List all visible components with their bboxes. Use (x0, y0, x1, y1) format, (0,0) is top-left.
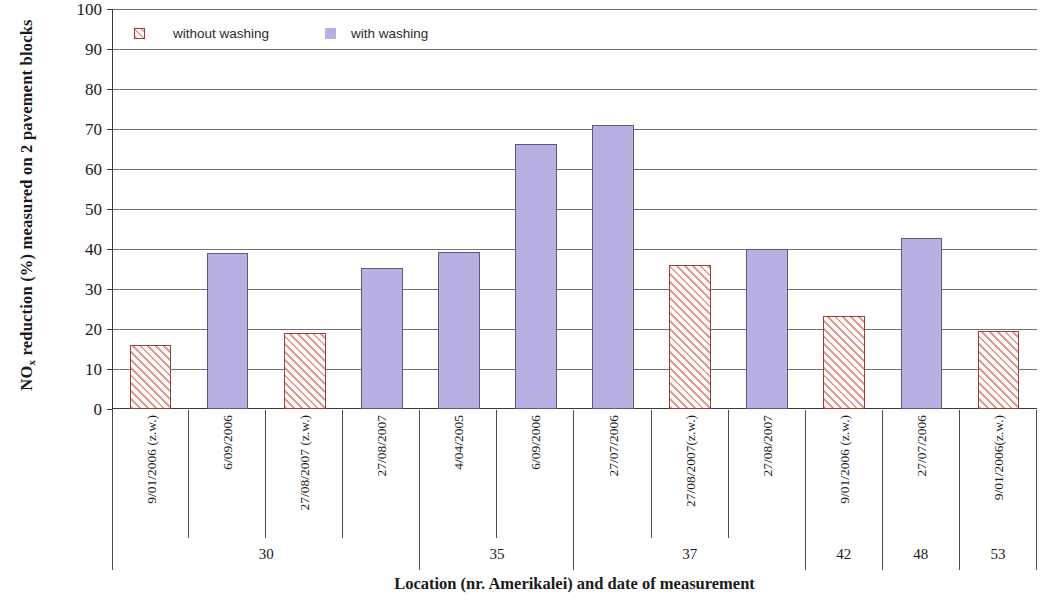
x-group-label-30: 30 (259, 546, 274, 563)
bar-4 (361, 268, 403, 409)
legend-item-without-washing: without washing (134, 26, 269, 41)
x-category-cell-2: 6/09/2006 (189, 410, 266, 538)
legend-label-with-washing: with washing (351, 26, 428, 41)
legend-swatch-solid-icon (325, 28, 336, 39)
bar-2 (207, 253, 249, 409)
x-category-cell-6: 6/09/2006 (497, 410, 574, 538)
y-axis-tick-labels: 1009080706050403020100 (56, 0, 102, 420)
bar-5 (438, 252, 480, 409)
chart-legend: without washing with washing (134, 26, 428, 41)
legend-item-with-washing: with washing (325, 26, 428, 41)
bar-10 (823, 316, 865, 409)
y-axis-title-prefix: NO (17, 366, 36, 391)
x-group-cell-53: 53 (960, 538, 1037, 570)
y-axis-tick-0: 0 (56, 401, 102, 418)
x-category-cell-12: 9/01/2006(z.w.) (960, 410, 1037, 538)
legend-label-without-washing: without washing (173, 26, 269, 41)
x-category-cell-4: 27/08/2007 (343, 410, 420, 538)
bar-9 (746, 249, 788, 409)
bars-layer (112, 9, 1037, 409)
y-axis-title: NOx reduction (%) measured on 2 pavement… (17, 0, 37, 415)
x-category-label-12: 9/01/2006(z.w.) (991, 415, 1007, 504)
bar-3 (284, 333, 326, 409)
x-category-cell-5: 4/04/2005 (420, 410, 497, 538)
x-category-label-10: 9/01/2006 (z.w.) (837, 415, 853, 508)
y-axis-tick-10: 10 (56, 361, 102, 378)
y-axis-tick-90: 90 (56, 41, 102, 58)
x-category-label-5: 4/04/2005 (451, 415, 467, 474)
x-category-label-11: 27/07/2006 (914, 415, 930, 481)
y-axis-tick-30: 30 (56, 281, 102, 298)
x-category-cell-11: 27/07/2006 (883, 410, 960, 538)
nox-reduction-bar-chart: NOx reduction (%) measured on 2 pavement… (0, 0, 1041, 600)
y-axis-tick-50: 50 (56, 201, 102, 218)
bar-12 (978, 331, 1020, 409)
x-category-label-9: 27/08/2007 (760, 415, 776, 481)
x-group-label-48: 48 (913, 546, 928, 563)
legend-swatch-hatch-icon (134, 28, 145, 39)
x-axis-category-labels: 9/01/2006 (z.w.)6/09/200627/08/2007 (z.w… (112, 410, 1037, 538)
x-group-cell-48: 48 (883, 538, 960, 570)
x-category-label-6: 6/09/2006 (528, 415, 544, 474)
x-category-cell-1: 9/01/2006 (z.w.) (112, 410, 189, 538)
y-axis-tick-60: 60 (56, 161, 102, 178)
x-group-label-35: 35 (489, 546, 504, 563)
x-group-cell-42: 42 (806, 538, 883, 570)
y-axis-title-suffix: reduction (%) measured on 2 pavement blo… (17, 19, 36, 359)
x-group-cell-35: 35 (420, 538, 574, 570)
x-axis-title: Location (nr. Amerikalei) and date of me… (112, 574, 1037, 594)
x-group-cell-37: 37 (575, 538, 806, 570)
x-group-cell-30: 30 (112, 538, 420, 570)
bar-11 (901, 238, 943, 409)
bar-1 (130, 345, 172, 409)
x-category-label-7: 27/07/2006 (606, 415, 622, 481)
x-axis-group-labels: 303537424853 (112, 538, 1037, 570)
x-category-label-3: 27/08/2007 (z.w.) (297, 415, 313, 514)
bar-8 (669, 265, 711, 409)
x-category-cell-3: 27/08/2007 (z.w.) (266, 410, 343, 538)
plot-area (112, 9, 1037, 409)
x-category-label-8: 27/08/2007(z.w.) (683, 415, 699, 511)
y-axis-tick-70: 70 (56, 121, 102, 138)
x-category-cell-8: 27/08/2007(z.w.) (652, 410, 729, 538)
y-axis-tick-100: 100 (56, 1, 102, 18)
x-category-cell-10: 9/01/2006 (z.w.) (806, 410, 883, 538)
x-group-label-53: 53 (990, 546, 1005, 563)
x-category-label-4: 27/08/2007 (374, 415, 390, 481)
y-axis-tick-20: 20 (56, 321, 102, 338)
y-axis-title-subscript: x (25, 360, 37, 366)
x-category-label-2: 6/09/2006 (220, 415, 236, 474)
bar-6 (515, 144, 557, 409)
x-category-label-1: 9/01/2006 (z.w.) (144, 415, 160, 508)
x-group-label-42: 42 (836, 546, 851, 563)
y-axis-tick-40: 40 (56, 241, 102, 258)
y-axis-tick-80: 80 (56, 81, 102, 98)
x-category-cell-9: 27/08/2007 (729, 410, 806, 538)
x-category-cell-7: 27/07/2006 (575, 410, 652, 538)
bar-7 (592, 125, 634, 409)
x-group-label-37: 37 (682, 546, 697, 563)
